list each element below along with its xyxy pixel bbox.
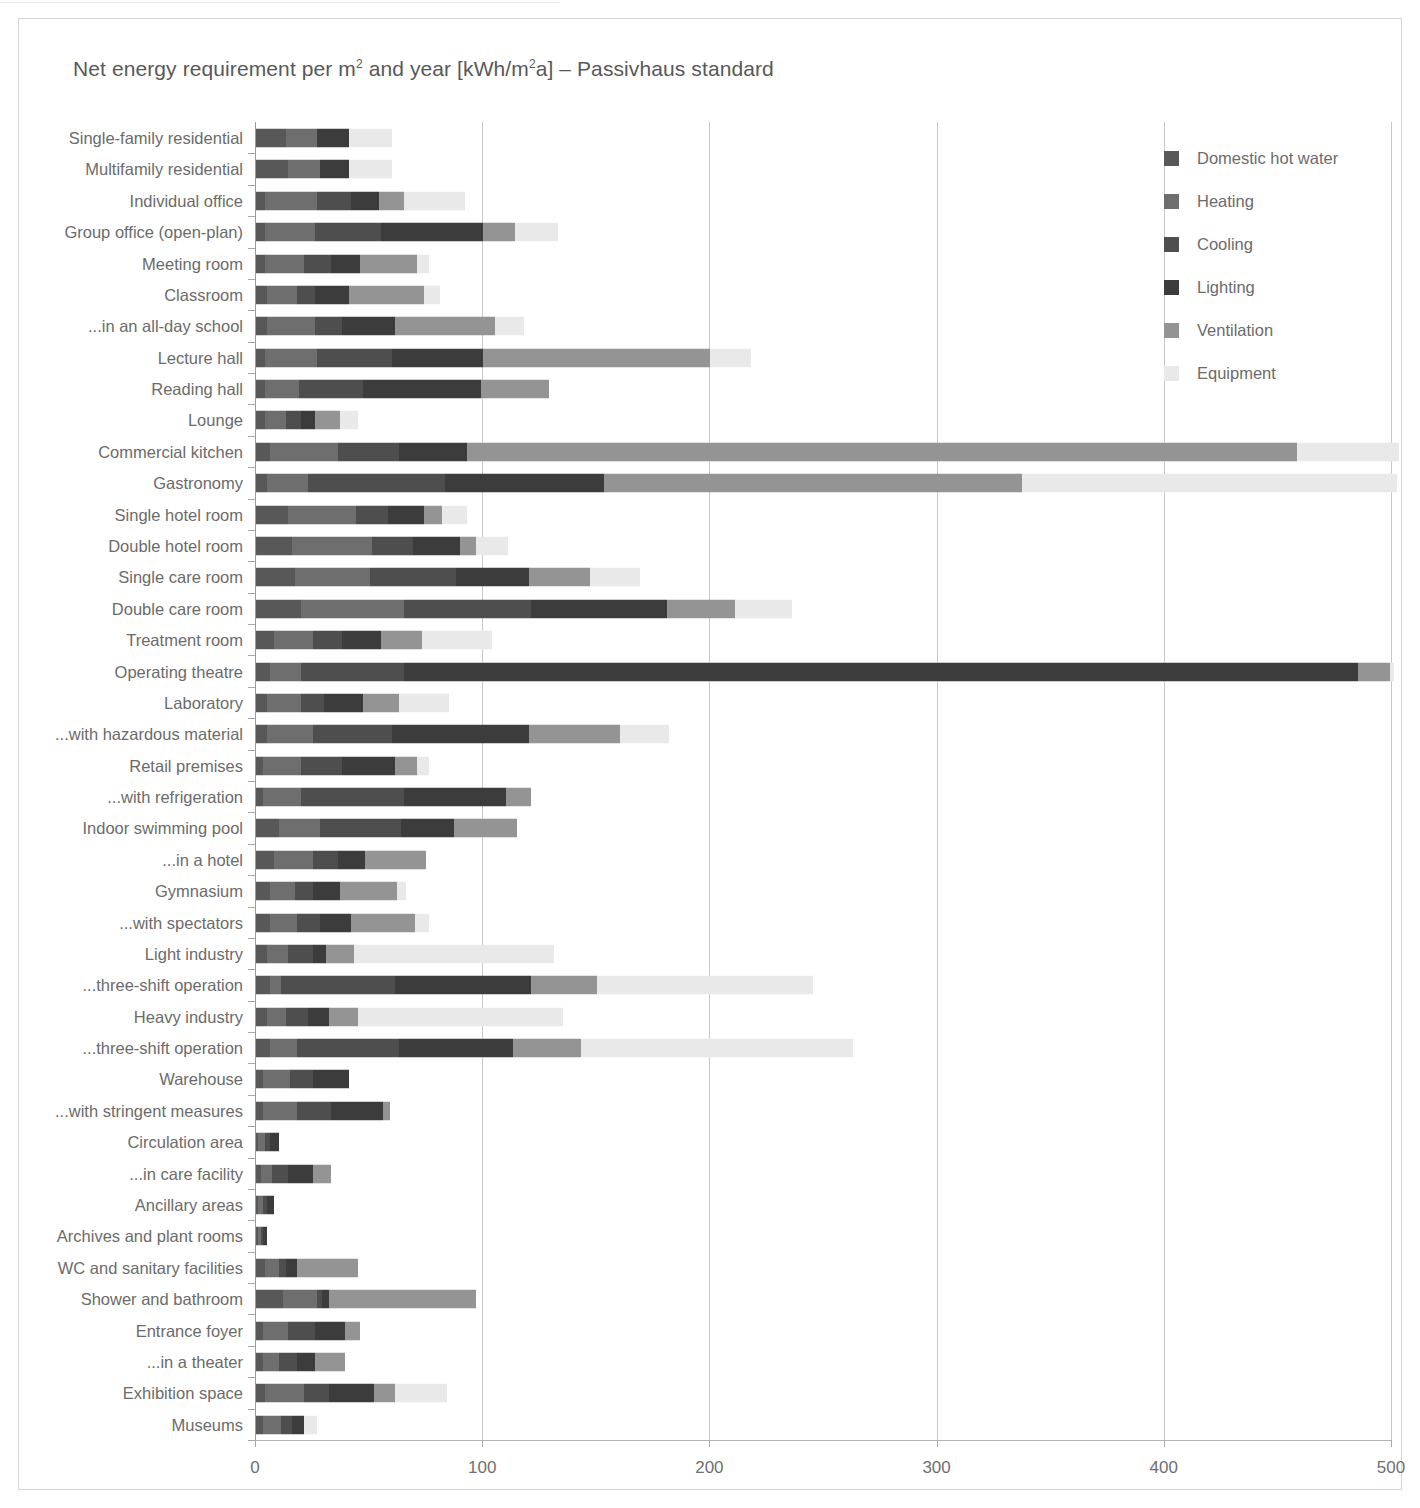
stacked-bar[interactable]: [256, 254, 429, 273]
bar-row[interactable]: Single hotel room: [255, 499, 1391, 531]
bar-segment-ventilation: [383, 1101, 390, 1120]
y-tick-mark: [248, 907, 255, 908]
bar-row[interactable]: Warehouse: [255, 1063, 1391, 1095]
stacked-bar[interactable]: [256, 380, 549, 399]
category-label: Circulation area: [127, 1133, 243, 1152]
stacked-bar[interactable]: [256, 1384, 447, 1403]
bar-row[interactable]: Gastronomy: [255, 467, 1391, 499]
stacked-bar[interactable]: [256, 1070, 349, 1089]
stacked-bar[interactable]: [256, 599, 792, 618]
bar-segment-ventilation: [315, 411, 340, 430]
stacked-bar[interactable]: [256, 285, 440, 304]
bar-row[interactable]: Circulation area: [255, 1126, 1391, 1158]
stacked-bar[interactable]: [256, 411, 358, 430]
bar-segment-domestic-hot-water: [256, 1070, 263, 1089]
stacked-bar[interactable]: [256, 1007, 563, 1026]
stacked-bar[interactable]: [256, 1164, 331, 1183]
bar-row[interactable]: Indoor swimming pool: [255, 812, 1391, 844]
bar-row[interactable]: Light industry: [255, 938, 1391, 970]
y-tick-mark: [248, 1314, 255, 1315]
bar-row[interactable]: Operating theatre: [255, 655, 1391, 687]
bar-segment-cooling: [301, 756, 342, 775]
legend-item[interactable]: Equipment: [1164, 352, 1414, 395]
stacked-bar[interactable]: [256, 348, 751, 367]
bar-row[interactable]: Single care room: [255, 561, 1391, 593]
stacked-bar[interactable]: [256, 850, 426, 869]
stacked-bar[interactable]: [256, 1133, 279, 1152]
legend-item[interactable]: Ventilation: [1164, 309, 1414, 352]
category-label: Exhibition space: [123, 1384, 243, 1403]
stacked-bar[interactable]: [256, 788, 531, 807]
bar-row[interactable]: ...with hazardous material: [255, 718, 1391, 750]
legend-item[interactable]: Heating: [1164, 180, 1414, 223]
y-tick-mark: [248, 781, 255, 782]
bar-segment-heating: [288, 505, 356, 524]
bar-row[interactable]: Lounge: [255, 404, 1391, 436]
bar-row[interactable]: Commercial kitchen: [255, 436, 1391, 468]
bar-row[interactable]: Exhibition space: [255, 1377, 1391, 1409]
bar-row[interactable]: Archives and plant rooms: [255, 1220, 1391, 1252]
stacked-bar[interactable]: [256, 223, 558, 242]
legend-item[interactable]: Lighting: [1164, 266, 1414, 309]
stacked-bar[interactable]: [256, 1227, 267, 1246]
stacked-bar[interactable]: [256, 1321, 361, 1340]
bar-segment-domestic-hot-water: [256, 693, 267, 712]
bar-row[interactable]: Treatment room: [255, 624, 1391, 656]
stacked-bar[interactable]: [256, 819, 517, 838]
stacked-bar[interactable]: [256, 160, 392, 179]
bar-row[interactable]: Ancillary areas: [255, 1189, 1391, 1221]
stacked-bar[interactable]: [256, 725, 670, 744]
stacked-bar[interactable]: [256, 662, 1394, 681]
y-tick-mark: [248, 373, 255, 374]
stacked-bar[interactable]: [256, 474, 1397, 493]
bar-row[interactable]: Shower and bathroom: [255, 1283, 1391, 1315]
bar-row[interactable]: Laboratory: [255, 687, 1391, 719]
bar-row[interactable]: ...with spectators: [255, 907, 1391, 939]
bar-row[interactable]: ...in a theater: [255, 1346, 1391, 1378]
stacked-bar[interactable]: [256, 537, 508, 556]
stacked-bar[interactable]: [256, 1196, 274, 1215]
bar-segment-lighting: [445, 474, 604, 493]
stacked-bar[interactable]: [256, 1258, 358, 1277]
stacked-bar[interactable]: [256, 882, 406, 901]
stacked-bar[interactable]: [256, 1039, 854, 1058]
bar-row[interactable]: Gymnasium: [255, 875, 1391, 907]
bar-row[interactable]: ...three-shift operation: [255, 1032, 1391, 1064]
stacked-bar[interactable]: [256, 976, 813, 995]
bar-row[interactable]: ...with refrigeration: [255, 781, 1391, 813]
bar-row[interactable]: Entrance foyer: [255, 1314, 1391, 1346]
stacked-bar[interactable]: [256, 913, 429, 932]
bar-row[interactable]: Retail premises: [255, 750, 1391, 782]
x-tick-label-400: 400: [1150, 1458, 1178, 1478]
stacked-bar[interactable]: [256, 505, 467, 524]
stacked-bar[interactable]: [256, 1101, 390, 1120]
stacked-bar[interactable]: [256, 1415, 317, 1434]
stacked-bar[interactable]: [256, 442, 1399, 461]
bar-row[interactable]: ...in care facility: [255, 1158, 1391, 1190]
bar-row[interactable]: WC and sanitary facilities: [255, 1252, 1391, 1284]
bar-row[interactable]: ...in a hotel: [255, 844, 1391, 876]
stacked-bar[interactable]: [256, 129, 392, 148]
bar-row[interactable]: Heavy industry: [255, 1001, 1391, 1033]
bar-row[interactable]: Double hotel room: [255, 530, 1391, 562]
bar-row[interactable]: ...three-shift operation: [255, 969, 1391, 1001]
bar-row[interactable]: Museums: [255, 1409, 1391, 1441]
bar-segment-heating: [263, 1352, 279, 1371]
stacked-bar[interactable]: [256, 317, 524, 336]
bar-row[interactable]: ...with stringent measures: [255, 1095, 1391, 1127]
legend-item[interactable]: Cooling: [1164, 223, 1414, 266]
bar-segment-cooling: [317, 348, 392, 367]
stacked-bar[interactable]: [256, 191, 465, 210]
stacked-bar[interactable]: [256, 1352, 345, 1371]
stacked-bar[interactable]: [256, 944, 554, 963]
stacked-bar[interactable]: [256, 631, 492, 650]
bar-segment-heating: [265, 380, 299, 399]
stacked-bar[interactable]: [256, 568, 640, 587]
legend-item[interactable]: Domestic hot water: [1164, 137, 1414, 180]
stacked-bar[interactable]: [256, 756, 429, 775]
category-label: Reading hall: [151, 380, 243, 399]
bar-row[interactable]: Double care room: [255, 593, 1391, 625]
stacked-bar[interactable]: [256, 693, 449, 712]
bar-segment-cooling: [304, 254, 331, 273]
stacked-bar[interactable]: [256, 1290, 476, 1309]
